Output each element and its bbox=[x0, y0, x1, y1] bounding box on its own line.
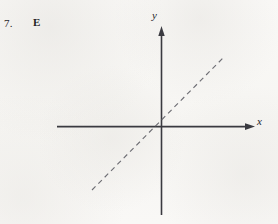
x-axis-label: x bbox=[257, 115, 262, 127]
y-axis-label: y bbox=[152, 9, 157, 21]
coordinate-plane-graph bbox=[0, 0, 278, 224]
arrow-up-icon bbox=[158, 26, 164, 36]
dashed-function-line bbox=[92, 57, 224, 190]
arrow-right-icon bbox=[245, 123, 255, 130]
